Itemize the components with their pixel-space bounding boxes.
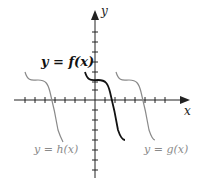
y-axis: [92, 14, 98, 178]
graph-diagram: y x y = f(x) y = h(x) y = g(x): [0, 0, 201, 184]
x-axis: [14, 97, 186, 103]
curve-g: [116, 72, 155, 140]
graph-svg: [0, 0, 201, 184]
y-axis-label: y: [101, 4, 108, 18]
curve-f-label: y = f(x): [41, 54, 94, 69]
curve-g-label: y = g(x): [144, 143, 188, 156]
x-axis-arrow-icon: [180, 96, 190, 104]
y-axis-arrow-icon: [91, 10, 99, 20]
curve-f: [85, 72, 125, 140]
x-axis-label: x: [184, 104, 191, 118]
curve-h-label: y = h(x): [34, 143, 78, 156]
curve-h: [25, 72, 63, 142]
